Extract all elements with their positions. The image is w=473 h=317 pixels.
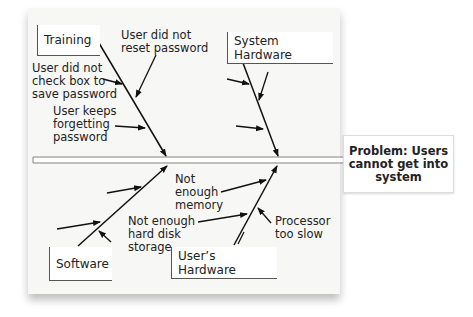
system-hardware-bone [243,63,278,156]
cause-forgetting-password: User keeps forgetting password [53,105,117,144]
cause-not-enough-disk: Not enough hard disk storage [128,215,195,254]
fishbone-diagram: Training System Hardware Software User’s… [0,0,473,317]
cause-reset-password: User did not reset password [121,29,208,55]
category-training: Training [37,25,100,56]
category-system-hardware-label: System Hardware [234,34,333,62]
spine [33,157,343,163]
problem-box: Problem: Users cannot get into system [343,135,454,193]
category-training-label: Training [44,33,91,47]
cause-not-enough-memory: Not enough memory [175,173,223,212]
users-hardware-bone [234,166,277,245]
category-software-label: Software [56,257,109,271]
cause-check-box: User did not check box to save password [32,62,117,101]
category-software: Software [49,247,112,281]
cause-processor-slow: Processor too slow [275,215,330,241]
category-system-hardware: System Hardware [227,32,333,64]
